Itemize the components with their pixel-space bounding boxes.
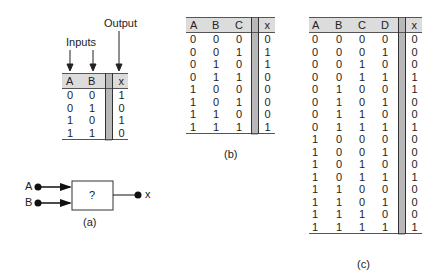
truth-table-a: A B x 001 010 101 110 [62, 73, 128, 140]
header-d: D [378, 18, 398, 33]
input-arrow-a-icon [67, 50, 73, 71]
header-c: C [231, 18, 251, 33]
table-row: 0101 [186, 58, 275, 71]
table-row: 010 [62, 102, 128, 115]
column-separator [251, 18, 258, 33]
column-separator [398, 18, 405, 33]
table-row: 01010 [309, 96, 422, 109]
table-row: 11010 [309, 196, 422, 209]
truth-table-b: A B C x 0000 0011 0101 0110 1000 1010 11… [186, 17, 275, 134]
caption-a: (a) [83, 216, 96, 228]
table-row: 10000 [309, 133, 422, 146]
table-row: 1111 [186, 121, 275, 134]
header-c: C [355, 18, 378, 33]
table-row: 1010 [186, 96, 275, 109]
header-x: x [112, 74, 128, 89]
caption-b: (b) [224, 148, 237, 160]
table-row: 10100 [309, 158, 422, 171]
table-row: 01111 [309, 121, 422, 134]
column-separator [105, 74, 112, 89]
table-row: 110 [62, 127, 128, 140]
truth-table-c: A B C D x 00000 00010 00100 00111 01001 … [309, 17, 422, 234]
table-row: 001 [62, 89, 128, 102]
caption-c: (c) [357, 258, 370, 270]
table-row: 00000 [309, 33, 422, 46]
input-a-arrow-icon [60, 183, 72, 191]
input-arrow-b-icon [90, 50, 96, 71]
table-row: 00100 [309, 58, 422, 71]
table-row: 1100 [186, 108, 275, 121]
table-row: 11111 [309, 221, 422, 234]
table-row: 00111 [309, 71, 422, 84]
logic-block-diagram [35, 181, 142, 210]
block-input-b-label: B [25, 196, 32, 208]
input-b-arrow-icon [60, 199, 72, 207]
table-row: 11000 [309, 183, 422, 196]
table-row: 1000 [186, 83, 275, 96]
table-row: 11100 [309, 208, 422, 221]
block-unknown-label: ? [89, 189, 95, 201]
header-x: x [405, 18, 422, 33]
block-output-label: x [145, 188, 151, 200]
block-input-a-label: A [25, 180, 32, 192]
table-row: 101 [62, 114, 128, 127]
header-b: B [84, 74, 105, 89]
header-x: x [258, 18, 275, 33]
table-row: 01001 [309, 83, 422, 96]
header-a: A [62, 74, 84, 89]
table-row: 00010 [309, 46, 422, 59]
output-arrow-icon [116, 31, 122, 71]
header-b: B [208, 18, 231, 33]
header-a: A [309, 18, 332, 33]
table-row: 10111 [309, 171, 422, 184]
table-row: 0110 [186, 71, 275, 84]
table-row: 01100 [309, 108, 422, 121]
table-row: 0000 [186, 33, 275, 46]
table-row: 10010 [309, 146, 422, 159]
output-terminal-icon [135, 192, 142, 199]
table-row: 0011 [186, 46, 275, 59]
header-b: B [332, 18, 355, 33]
header-a: A [186, 18, 208, 33]
